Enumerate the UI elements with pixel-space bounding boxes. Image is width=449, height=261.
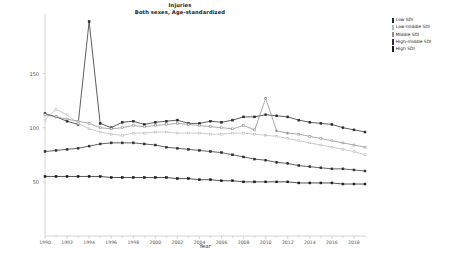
- x-tick-label: 1992: [55, 240, 79, 245]
- data-point: [309, 166, 311, 168]
- data-point: [199, 179, 201, 181]
- data-point: [210, 126, 212, 128]
- series-line: [45, 176, 365, 184]
- data-point: [132, 177, 134, 179]
- x-tick-label: 1998: [121, 240, 145, 245]
- data-point: [309, 121, 311, 123]
- data-point: [110, 128, 112, 130]
- data-point: [243, 181, 245, 183]
- data-point: [276, 161, 278, 163]
- data-point: [243, 125, 245, 127]
- data-point: [66, 114, 68, 116]
- data-point: [55, 116, 57, 118]
- legend-item-high-sdi[interactable]: High SDI: [392, 46, 449, 53]
- data-point: [176, 178, 178, 180]
- data-point: [210, 179, 212, 181]
- data-point: [66, 120, 68, 122]
- chart-figure: Injuries Both sexes, Age-standardized De…: [0, 0, 449, 261]
- data-point: [364, 146, 366, 148]
- data-point: [154, 144, 156, 146]
- data-point: [176, 119, 178, 121]
- data-point: [265, 181, 267, 183]
- data-point: [221, 152, 223, 154]
- data-point: [265, 159, 267, 161]
- y-tick-label: 50: [17, 179, 39, 185]
- data-point: [154, 177, 156, 179]
- legend-item-low-sdi[interactable]: Low SDI: [392, 17, 449, 24]
- legend-swatch-icon: [392, 32, 394, 38]
- data-point: [99, 122, 101, 124]
- data-point: [55, 175, 57, 177]
- legend-item-middle-sdi[interactable]: Middle SDI: [392, 31, 449, 38]
- data-point: [188, 124, 190, 126]
- data-point: [232, 128, 234, 130]
- data-point: [44, 114, 46, 116]
- data-point: [88, 122, 90, 124]
- data-point: [165, 177, 167, 179]
- data-point: [132, 142, 134, 144]
- data-point: [320, 122, 322, 124]
- data-point: [55, 150, 57, 152]
- x-tick-label: 2002: [165, 240, 189, 245]
- data-point: [99, 127, 101, 129]
- data-point: [154, 125, 156, 127]
- data-point: [298, 119, 300, 121]
- data-point: [276, 135, 278, 137]
- data-point: [342, 168, 344, 170]
- legend-item-high-middle-sdi[interactable]: High-middle SDI: [392, 39, 449, 46]
- data-point: [331, 182, 333, 184]
- legend-item-low-middle-sdi[interactable]: Low-middle SDI: [392, 24, 449, 31]
- x-tick-label: 2012: [276, 240, 300, 245]
- data-point: [88, 21, 90, 23]
- data-point: [331, 124, 333, 126]
- legend-item-label: High-middle SDI: [396, 39, 432, 45]
- x-tick-label: 1990: [33, 240, 57, 245]
- y-tick-label: 150: [17, 71, 39, 77]
- series-line: [45, 109, 365, 154]
- data-point: [210, 151, 212, 153]
- data-point: [199, 150, 201, 152]
- data-point: [298, 140, 300, 142]
- data-point: [121, 127, 123, 129]
- legend-swatch-icon: [392, 46, 394, 52]
- data-point: [298, 165, 300, 167]
- data-point: [364, 131, 366, 133]
- data-point: [243, 116, 245, 118]
- data-point: [154, 131, 156, 133]
- series-low-sdi: [44, 21, 366, 133]
- data-point: [143, 132, 145, 134]
- data-point: [232, 119, 234, 121]
- data-point: [287, 162, 289, 164]
- chart-canvas: [0, 0, 449, 261]
- data-point: [110, 177, 112, 179]
- x-tick-label: 1994: [77, 240, 101, 245]
- data-point: [254, 129, 256, 131]
- data-point: [342, 142, 344, 144]
- data-point: [353, 183, 355, 185]
- data-point: [121, 142, 123, 144]
- data-point: [66, 175, 68, 177]
- data-point: [254, 181, 256, 183]
- x-tick-label: 2008: [232, 240, 256, 245]
- data-point: [287, 132, 289, 134]
- data-point: [364, 183, 366, 185]
- data-point: [287, 181, 289, 183]
- data-point: [110, 142, 112, 144]
- data-point: [143, 143, 145, 145]
- data-point: [232, 132, 234, 134]
- data-point: [232, 154, 234, 156]
- data-point: [287, 138, 289, 140]
- data-point: [176, 132, 178, 134]
- data-point: [210, 120, 212, 122]
- legend-item-label: Low SDI: [396, 17, 414, 23]
- data-point: [331, 146, 333, 148]
- x-tick-label: 2000: [143, 240, 167, 245]
- data-point: [232, 180, 234, 182]
- data-point: [99, 175, 101, 177]
- data-point: [188, 132, 190, 134]
- x-tick-label: 2014: [298, 240, 322, 245]
- data-point: [309, 135, 311, 137]
- data-point: [55, 108, 57, 110]
- data-point: [88, 175, 90, 177]
- data-point: [320, 182, 322, 184]
